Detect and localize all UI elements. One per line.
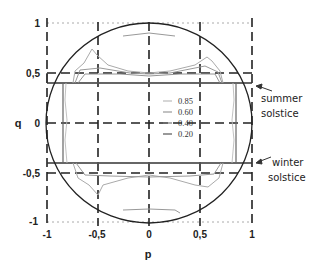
winter-label-line2: solstice bbox=[268, 172, 306, 183]
summer-arrow bbox=[256, 84, 272, 91]
y-tick-neg-1: -1 bbox=[29, 216, 38, 227]
y-tick-1: 1 bbox=[34, 18, 40, 29]
contour-arc-top bbox=[123, 33, 175, 36]
winter-arrow bbox=[256, 157, 271, 164]
y-tick-0-5: 0,5 bbox=[26, 68, 40, 79]
pq-solstice-chart: 0.85 0.60 0.40 0.20 summer solstice wint… bbox=[0, 0, 321, 271]
legend: 0.85 0.60 0.40 0.20 bbox=[163, 96, 193, 139]
legend-label-020: 0.20 bbox=[178, 129, 193, 139]
summer-label-line1: summer bbox=[261, 93, 303, 104]
x-tick-neg-0-5: -0,5 bbox=[88, 229, 106, 240]
legend-label-085: 0.85 bbox=[178, 96, 193, 106]
legend-label-060: 0.60 bbox=[178, 107, 193, 117]
y-tick-0: 0 bbox=[34, 118, 40, 129]
x-tick-neg-1: -1 bbox=[43, 229, 52, 240]
winter-label-line1: winter bbox=[272, 157, 304, 168]
y-axis-label: q bbox=[15, 117, 22, 129]
x-axis-label: p bbox=[145, 248, 152, 260]
horizontal-grid-lines bbox=[47, 73, 252, 173]
x-tick-0-5: 0,5 bbox=[193, 229, 207, 240]
x-tick-1: 1 bbox=[249, 229, 255, 240]
y-tick-neg-0-5: -0,5 bbox=[23, 168, 41, 179]
contour-arc-bottom bbox=[123, 209, 180, 213]
legend-label-040: 0.40 bbox=[178, 118, 193, 128]
summer-label-line2: solstice bbox=[261, 108, 299, 119]
x-tick-0: 0 bbox=[146, 229, 152, 240]
